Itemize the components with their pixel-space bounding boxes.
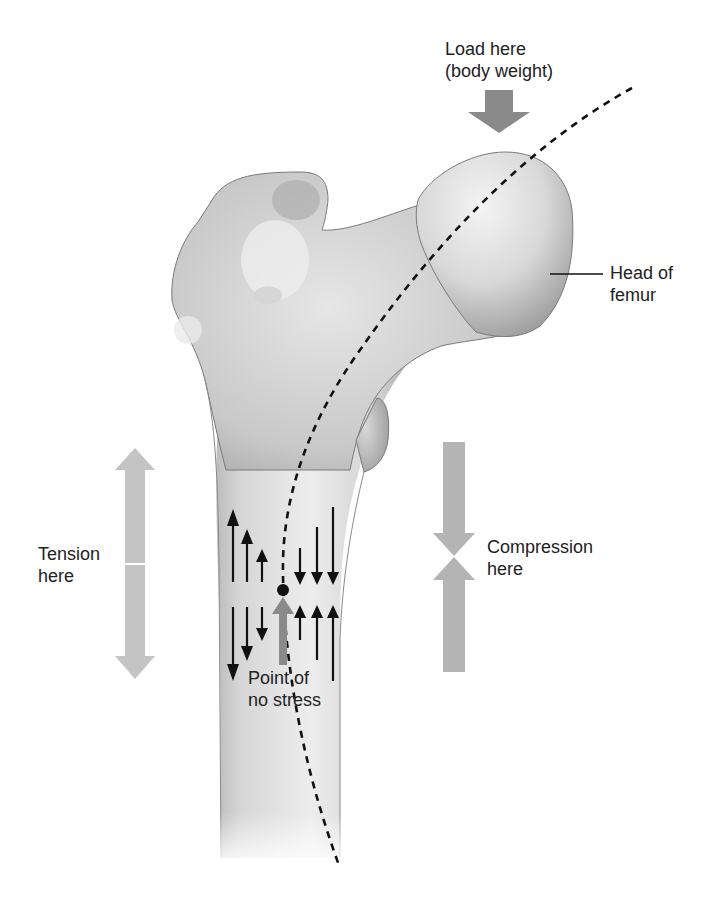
neutral-label-line-1: Point of xyxy=(248,667,321,689)
tension-label-line-2: here xyxy=(38,565,100,587)
compression-label: Compression here xyxy=(487,536,593,580)
compression-label-line-2: here xyxy=(487,558,593,580)
load-arrow xyxy=(468,90,530,133)
tension-label-line-1: Tension xyxy=(38,543,100,565)
trochanter-rough xyxy=(254,286,282,304)
load-label: Load here (body weight) xyxy=(445,38,553,82)
tension-arrow xyxy=(115,448,155,679)
load-label-line-1: Load here xyxy=(445,38,553,60)
compression-arrow xyxy=(433,442,475,672)
load-label-line-2: (body weight) xyxy=(445,60,553,82)
neutral-label-line-2: no stress xyxy=(248,689,321,711)
head-of-femur-label: Head of femur xyxy=(610,262,673,306)
point-of-no-stress-label: Point of no stress xyxy=(248,667,321,711)
tension-label: Tension here xyxy=(38,543,100,587)
neutral-point-dot xyxy=(277,584,289,596)
trochanter-shadow xyxy=(272,180,320,220)
head-label-line-1: Head of xyxy=(610,262,673,284)
femur-stress-diagram xyxy=(0,0,722,911)
shaft-bottom-cover xyxy=(210,858,350,878)
trochanter-rough-left xyxy=(174,316,202,344)
compression-label-line-1: Compression xyxy=(487,536,593,558)
head-label-line-2: femur xyxy=(610,284,673,306)
